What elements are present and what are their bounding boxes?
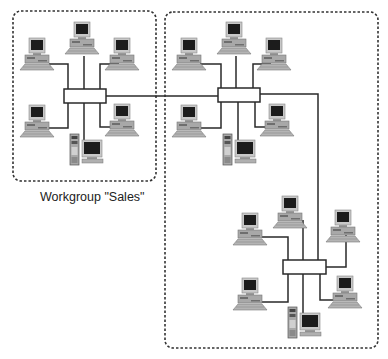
workstation-icon xyxy=(328,276,362,308)
workgroup-sales-label: Workgroup "Sales" xyxy=(40,190,145,204)
workstation-icon xyxy=(65,22,99,54)
workstation-icon xyxy=(172,38,206,70)
workstation-icon xyxy=(273,196,307,228)
workstation-icon xyxy=(326,210,360,242)
workstation-icon xyxy=(217,22,251,54)
workstation-icon xyxy=(257,38,291,70)
workstation-icon xyxy=(105,38,139,70)
workstation-icon xyxy=(105,104,139,136)
workstation-icon xyxy=(20,38,54,70)
hub-upper-icon xyxy=(218,88,260,102)
network-diagram xyxy=(0,0,388,359)
server-icon xyxy=(223,134,256,165)
server-icon xyxy=(288,307,321,338)
workstation-icon xyxy=(20,105,54,137)
workstation-icon xyxy=(233,213,267,245)
workstation-icon xyxy=(172,105,206,137)
workstation-icon xyxy=(233,278,267,310)
server-icon xyxy=(70,134,103,165)
workstation-icon xyxy=(260,104,294,136)
network-cable xyxy=(200,102,221,128)
network-cable xyxy=(261,274,288,302)
hub-lower-icon xyxy=(283,260,326,274)
servers xyxy=(70,134,321,338)
network-cable xyxy=(49,103,68,128)
network-cable xyxy=(261,237,288,260)
hub-sales-icon xyxy=(64,89,106,103)
